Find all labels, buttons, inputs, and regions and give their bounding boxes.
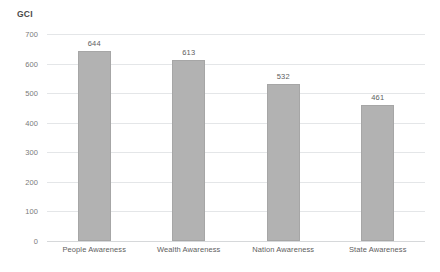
x-tick-label: Wealth Awareness — [157, 245, 220, 254]
plot-area: 644613532461 — [47, 34, 425, 241]
x-axis: People AwarenessWealth AwarenessNation A… — [47, 245, 425, 261]
bar[interactable] — [78, 51, 111, 241]
bar-value-label: 644 — [88, 39, 101, 48]
x-tick-label: People Awareness — [62, 245, 126, 254]
x-tick-label: Nation Awareness — [252, 245, 314, 254]
chart-title: GCI — [17, 9, 33, 19]
y-tick-label: 200 — [25, 177, 38, 186]
bar[interactable] — [172, 60, 205, 241]
bar-value-label: 532 — [277, 72, 290, 81]
gridline — [47, 34, 425, 35]
bar-chart: GCI 0100200300400500600700 644613532461 … — [0, 0, 440, 272]
y-tick-label: 100 — [25, 207, 38, 216]
x-tick-label: State Awareness — [349, 245, 407, 254]
y-tick-label: 600 — [25, 59, 38, 68]
bar[interactable] — [361, 105, 394, 241]
bar-value-label: 613 — [182, 48, 195, 57]
gridline — [47, 241, 425, 242]
y-tick-label: 0 — [34, 237, 38, 246]
y-tick-label: 300 — [25, 148, 38, 157]
y-tick-label: 700 — [25, 30, 38, 39]
bar-value-label: 461 — [371, 93, 384, 102]
y-axis: 0100200300400500600700 — [0, 34, 43, 241]
y-tick-label: 500 — [25, 89, 38, 98]
y-tick-label: 400 — [25, 118, 38, 127]
bar[interactable] — [267, 84, 300, 241]
